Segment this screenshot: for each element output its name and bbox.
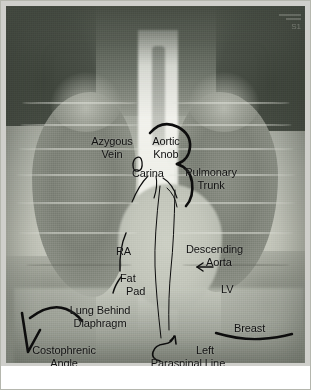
label-aortic-knob: Aortic Knob <box>146 135 186 160</box>
label-lung-behind-diaphragm-line1: Lung Behind <box>62 304 138 317</box>
label-aortic-knob-line1: Aortic <box>146 135 186 148</box>
label-breast: Breast <box>234 322 265 335</box>
label-aortic-knob-line2: Knob <box>146 148 186 161</box>
label-costophrenic-angle-line1: Costophrenic <box>28 344 100 357</box>
label-pulmonary-trunk-line2: Trunk <box>182 179 240 192</box>
paraspinal-line-right <box>169 190 175 330</box>
label-left-ventricle: LV <box>221 283 233 296</box>
film-corner-stamp: S1 <box>279 14 301 38</box>
label-fat-pad-line2: Pad <box>120 285 145 298</box>
label-azygous-vein-line2: Vein <box>86 148 138 161</box>
label-descending-aorta: Descending Aorta <box>186 243 243 268</box>
chest-xray-figure: Azygous Vein Aortic Knob Carina Pulmonar… <box>0 0 311 390</box>
label-azygous-vein: Azygous Vein <box>86 135 138 160</box>
caption-strip <box>0 366 311 390</box>
stamp-text: S1 <box>279 22 301 31</box>
label-pulmonary-trunk: Pulmonary Trunk <box>182 166 240 191</box>
label-fat-pad-line1: Fat <box>120 272 145 285</box>
label-left-paraspinal-line-line1: Left <box>142 344 234 357</box>
label-lung-behind-diaphragm: Lung Behind Diaphragm <box>62 304 138 329</box>
paraspinal-line-left <box>155 186 161 338</box>
label-carina: Carina <box>132 167 164 180</box>
label-fat-pad: Fat Pad <box>120 272 145 297</box>
stamp-bar <box>286 18 301 20</box>
label-lung-behind-diaphragm-line2: Diaphragm <box>62 317 138 330</box>
stamp-bar <box>279 14 301 16</box>
carina-branch-line <box>167 188 177 207</box>
label-pulmonary-trunk-line1: Pulmonary <box>182 166 240 179</box>
label-right-atrium: RA <box>116 245 131 258</box>
label-azygous-vein-line1: Azygous <box>86 135 138 148</box>
carina-right-bronchus <box>132 176 148 202</box>
label-descending-aorta-line2: Aorta <box>186 256 243 269</box>
label-descending-aorta-line1: Descending <box>186 243 243 256</box>
